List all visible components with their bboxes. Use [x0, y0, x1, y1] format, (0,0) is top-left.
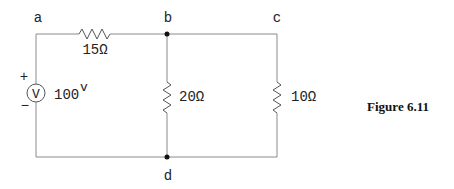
- figure-caption: Figure 6.11: [367, 99, 429, 114]
- voltage-source-symbol: V: [32, 87, 40, 102]
- node-b-dot: [165, 32, 170, 37]
- source-unit-label: v: [80, 80, 88, 95]
- circuit-diagram: V a b c d 15Ω 20Ω 10Ω + − 100 v Figure 6…: [0, 0, 454, 189]
- source-plus-sign: +: [20, 69, 28, 85]
- resistor-15-label: 15Ω: [82, 42, 107, 58]
- node-label-d: d: [164, 168, 172, 184]
- resistor-10-ohm: [273, 82, 281, 113]
- node-label-c: c: [273, 10, 281, 26]
- resistor-10-label: 10Ω: [291, 89, 316, 105]
- node-label-a: a: [34, 10, 42, 26]
- resistor-20-label: 20Ω: [179, 89, 204, 105]
- resistor-15-ohm: [79, 29, 110, 39]
- node-label-b: b: [164, 10, 172, 26]
- resistor-20-ohm: [163, 82, 171, 113]
- source-minus-sign: −: [21, 98, 29, 114]
- node-d-dot: [165, 155, 170, 160]
- source-value-label: 100: [54, 87, 79, 103]
